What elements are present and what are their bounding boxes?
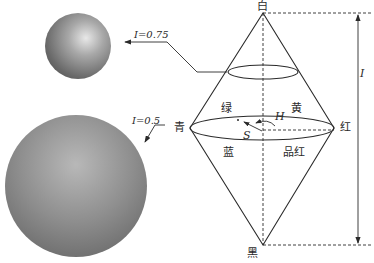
sphere-i075 — [45, 13, 111, 79]
diagram-canvas — [0, 0, 374, 263]
vertex-white-label: 白 — [257, 1, 268, 12]
hue-yellow-label: 黄 — [291, 103, 302, 114]
lower-cone — [190, 128, 334, 245]
hue-symbol: H — [275, 111, 285, 122]
vertex-red-label: 红 — [340, 122, 351, 133]
sphere-i05 — [5, 115, 147, 257]
upper-cone — [190, 13, 334, 128]
saturation-symbol: S — [243, 130, 251, 141]
hue-arrow — [256, 121, 275, 126]
vertex-cyan-label: 青 — [174, 122, 185, 133]
leader-i05 — [145, 125, 165, 142]
leader-i075 — [125, 42, 227, 72]
hsi-diagram: 白 黑 青 红 绿 黄 蓝 品红 H S I I=0.75 I=0.5 — [0, 0, 374, 263]
color-point — [237, 119, 239, 121]
hue-magenta-label: 品红 — [283, 147, 305, 158]
slice-label-i05: I=0.5 — [132, 116, 160, 126]
slice-label-i075: I=0.75 — [134, 30, 169, 40]
slice-ellipse-i075 — [228, 65, 298, 79]
equator-ellipse — [190, 116, 334, 140]
vertex-black-label: 黑 — [247, 248, 258, 259]
intensity-symbol: I — [360, 68, 364, 79]
hue-green-label: 绿 — [221, 103, 232, 114]
hue-blue-label: 蓝 — [223, 147, 234, 158]
